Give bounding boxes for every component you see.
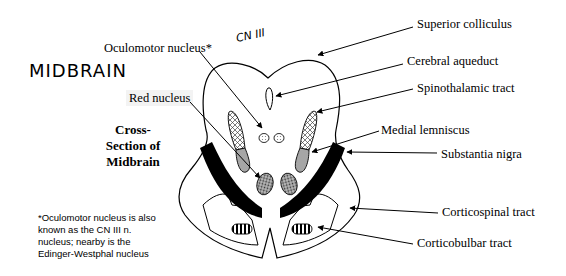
midbrain-diagram	[0, 0, 566, 276]
oculomotor-nucleus-left	[259, 134, 269, 143]
arrow-corticospinal	[350, 208, 438, 213]
oculomotor-nucleus-right	[274, 134, 284, 143]
corticobulbar-tract-right	[292, 224, 312, 234]
arrow-superior-colliculus	[318, 27, 413, 55]
arrow-substantia-nigra	[347, 152, 437, 153]
corticobulbar-tract-left	[232, 224, 252, 234]
